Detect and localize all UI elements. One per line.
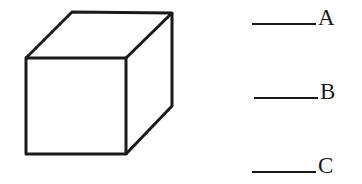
option-a: A	[252, 6, 335, 29]
answer-blank-c[interactable]	[252, 171, 316, 173]
option-label-b: B	[320, 80, 335, 103]
option-label-a: A	[318, 6, 335, 29]
cube-top-face	[26, 12, 172, 58]
cube-front-face	[26, 58, 126, 154]
option-c: C	[252, 154, 333, 177]
option-b: B	[254, 80, 335, 103]
answer-blank-a[interactable]	[252, 23, 316, 25]
answer-blank-b[interactable]	[254, 97, 318, 99]
option-label-c: C	[318, 154, 333, 177]
cube-figure	[0, 0, 200, 184]
